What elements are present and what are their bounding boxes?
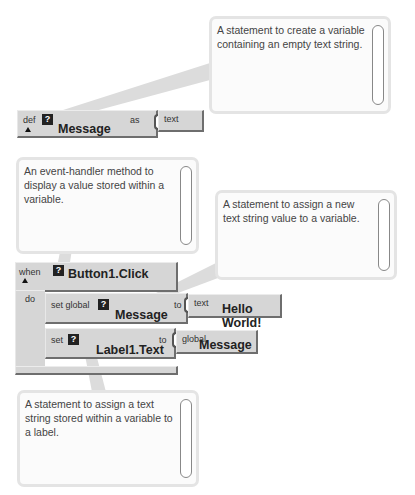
variable-name[interactable]: Message [58, 122, 111, 136]
comment-text: A statement to assign a text string stor… [25, 398, 173, 438]
help-icon[interactable]: ? [42, 114, 53, 125]
comment-scrollbar[interactable] [180, 166, 192, 245]
text-value-block[interactable]: text [158, 110, 204, 132]
comment-set-global: A statement to assign a new text string … [215, 190, 397, 280]
comment-text: A statement to assign a new text string … [223, 198, 360, 224]
comment-text: A statement to create a variable contain… [217, 24, 365, 50]
variable-name[interactable]: Message [199, 338, 252, 352]
event-name[interactable]: Button1.Click [68, 267, 149, 281]
set-global-keyword: set global [51, 300, 90, 310]
comment-def: A statement to create a variable contain… [209, 16, 391, 114]
text-value[interactable]: Hello World! [222, 302, 280, 330]
comment-event: An event-handler method to display a val… [16, 157, 199, 254]
as-label: as [130, 115, 140, 125]
event-handler-body: do [15, 290, 45, 372]
set-global-block[interactable]: set global ? Message to [45, 293, 188, 324]
comment-set-label: A statement to assign a text string stor… [17, 390, 199, 487]
collapse-triangle-icon[interactable] [25, 127, 31, 132]
text-type-label: text [194, 298, 209, 308]
set-label-block[interactable]: set ? Label1.Text to [45, 328, 176, 359]
comment-scrollbar[interactable] [180, 399, 192, 478]
to-label: to [159, 335, 167, 345]
comment-text: An event-handler method to display a val… [24, 165, 164, 205]
help-icon[interactable]: ? [53, 265, 64, 276]
do-label: do [25, 294, 35, 304]
set-keyword: set [51, 335, 63, 345]
def-variable-block[interactable]: def ? Message as [17, 110, 158, 138]
component-property[interactable]: Label1.Text [96, 343, 164, 357]
to-label: to [174, 300, 182, 310]
help-icon[interactable]: ? [98, 299, 109, 310]
event-handler-block[interactable]: when ? Button1.Click [15, 262, 178, 292]
def-keyword: def [23, 115, 36, 125]
help-icon[interactable]: ? [68, 334, 79, 345]
variable-name[interactable]: Message [115, 308, 168, 322]
comment-scrollbar[interactable] [372, 25, 384, 105]
when-keyword: when [19, 267, 41, 277]
text-type-label: text [164, 114, 179, 124]
global-getter-block[interactable]: global Message [176, 330, 258, 354]
collapse-triangle-icon[interactable] [22, 278, 28, 283]
text-string-block[interactable]: text Hello World! [188, 294, 282, 318]
event-handler-footer [15, 366, 178, 375]
comment-scrollbar[interactable] [378, 199, 390, 271]
